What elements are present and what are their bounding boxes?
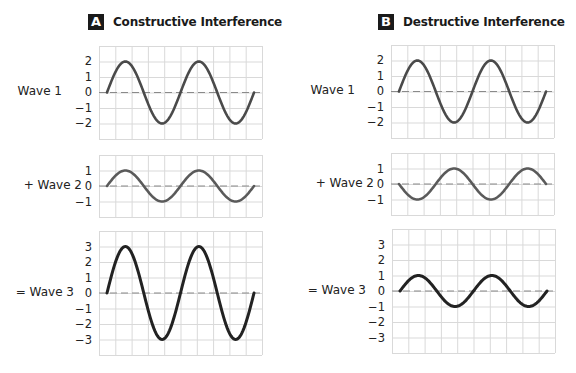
- panel-b-heading: Destructive Interference: [403, 15, 565, 29]
- wave-label: = Wave 3: [16, 285, 74, 299]
- y-tick-label: −3: [365, 332, 385, 344]
- wave-label: Wave 1: [18, 84, 62, 98]
- wave-label: Wave 1: [311, 83, 355, 97]
- panel-a-title: A Constructive Interference: [88, 13, 282, 30]
- y-tick-label: 2: [72, 55, 92, 67]
- y-tick-label: −1: [72, 303, 92, 315]
- y-tick-label: −2: [364, 116, 384, 128]
- y-tick-label: 0: [364, 178, 384, 190]
- y-tick-label: −2: [72, 318, 92, 330]
- panel-b-badge: B: [378, 14, 394, 30]
- y-tick-label: −2: [72, 117, 92, 129]
- y-tick-label: −3: [72, 334, 92, 346]
- y-tick-label: −1: [364, 194, 384, 206]
- y-tick-label: 3: [72, 241, 92, 253]
- panel-a-heading: Constructive Interference: [113, 15, 282, 29]
- wave-plot: [391, 45, 556, 140]
- y-tick-label: −2: [365, 316, 385, 328]
- y-tick-label: 1: [364, 163, 384, 175]
- y-tick-label: 0: [72, 86, 92, 98]
- y-tick-label: 2: [365, 254, 385, 266]
- panel-a-badge: A: [88, 14, 104, 30]
- y-tick-label: 1: [72, 165, 92, 177]
- y-tick-label: 1: [365, 270, 385, 282]
- y-tick-label: −1: [72, 102, 92, 114]
- y-tick-label: −1: [72, 196, 92, 208]
- y-tick-label: 0: [72, 287, 92, 299]
- y-tick-label: 2: [72, 256, 92, 268]
- y-tick-label: −1: [365, 301, 385, 313]
- y-tick-label: 0: [364, 85, 384, 97]
- wave-plot: [99, 155, 264, 219]
- wave-label: = Wave 3: [308, 283, 366, 297]
- y-tick-label: 2: [364, 54, 384, 66]
- y-tick-label: 1: [72, 71, 92, 83]
- y-tick-label: 3: [365, 239, 385, 251]
- y-tick-label: 1: [364, 70, 384, 82]
- wave-plot: [391, 153, 556, 217]
- panel-b-title: B Destructive Interference: [378, 13, 565, 30]
- wave-plot: [99, 46, 264, 141]
- y-tick-label: −1: [364, 101, 384, 113]
- y-tick-label: 1: [72, 272, 92, 284]
- wave-plot: [99, 231, 264, 357]
- wave-plot: [392, 229, 557, 355]
- y-tick-label: 0: [72, 180, 92, 192]
- y-tick-label: 0: [365, 285, 385, 297]
